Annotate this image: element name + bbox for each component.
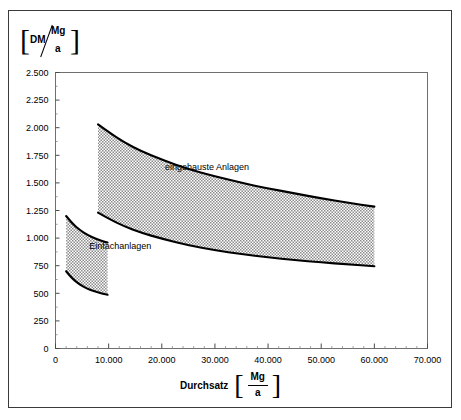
x-tick-label: 30.000 bbox=[201, 355, 229, 365]
y-tick-label: 2.000 bbox=[26, 123, 49, 133]
x-tick-label: 60.000 bbox=[361, 355, 389, 365]
x-tick-label: 20.000 bbox=[148, 355, 176, 365]
x-axis-ticks bbox=[56, 344, 428, 349]
x-unit-fraction-bar bbox=[248, 385, 268, 386]
y-tick-label: 250 bbox=[33, 316, 48, 326]
series-annotation: eingehauste Anlagen bbox=[165, 162, 249, 172]
chart-figure: [ DM Mg a ] 02505007501.0001.2501.5001.7… bbox=[0, 0, 461, 420]
series-annotation: Einfachanlagen bbox=[89, 241, 151, 251]
x-unit-fraction: Mg a bbox=[244, 372, 272, 398]
x-axis-title: Durchsatz [ Mg a ] bbox=[0, 372, 461, 398]
x-tick-label: 0 bbox=[53, 355, 58, 365]
y-tick-label: 1.250 bbox=[26, 206, 49, 216]
x-tick-label: 40.000 bbox=[254, 355, 282, 365]
band-fill bbox=[66, 216, 107, 295]
y-tick-label: 2.500 bbox=[26, 68, 49, 78]
y-tick-label: 2.250 bbox=[26, 95, 49, 105]
y-axis-ticks bbox=[56, 73, 60, 349]
plot-area: 02505007501.0001.2501.5001.7502.0002.250… bbox=[0, 0, 461, 420]
x-axis-tick-labels: 010.00020.00030.00040.00050.00060.00070.… bbox=[53, 355, 441, 365]
y-tick-label: 750 bbox=[33, 261, 48, 271]
y-axis-tick-labels: 02505007501.0001.2501.5001.7502.0002.250… bbox=[26, 68, 49, 354]
y-tick-label: 1.750 bbox=[26, 151, 49, 161]
x-unit-numerator: Mg bbox=[250, 372, 264, 383]
x-unit-denominator: a bbox=[255, 388, 261, 399]
y-tick-label: 0 bbox=[43, 344, 48, 354]
y-tick-label: 1.000 bbox=[26, 233, 49, 243]
y-tick-label: 1.500 bbox=[26, 178, 49, 188]
x-axis-title-word: Durchsatz bbox=[180, 380, 228, 391]
x-tick-label: 50.000 bbox=[307, 355, 335, 365]
y-tick-label: 500 bbox=[33, 289, 48, 299]
data-bands bbox=[66, 124, 374, 294]
x-tick-label: 70.000 bbox=[414, 355, 442, 365]
x-tick-label: 10.000 bbox=[95, 355, 123, 365]
